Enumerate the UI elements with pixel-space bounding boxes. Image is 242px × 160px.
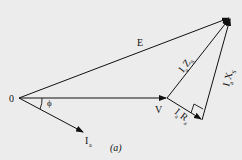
phasor-E xyxy=(19,18,229,98)
right-angle-marker xyxy=(191,104,203,113)
svg-text:a: a xyxy=(89,142,92,148)
svg-text:S: S xyxy=(231,70,238,75)
IaZs-label: I a Z S xyxy=(176,55,196,76)
IaXs-label: I a X S xyxy=(220,68,237,88)
phasor-diagram: 0 E V ϕ I a I a Z S I a X S I a R a (a) xyxy=(0,0,242,160)
phasor-IaZs xyxy=(167,19,229,98)
Ia-label: I a xyxy=(85,135,92,148)
V-label: V xyxy=(155,104,163,115)
phi-label: ϕ xyxy=(47,98,52,108)
E-label: E xyxy=(137,37,143,48)
svg-text:a: a xyxy=(228,81,235,85)
origin-label: 0 xyxy=(9,93,14,104)
IaRa-label: I a R a xyxy=(172,106,193,127)
caption: (a) xyxy=(110,142,122,154)
phi-arc xyxy=(40,98,42,109)
svg-text:I: I xyxy=(85,135,88,146)
phasor-IaXs xyxy=(202,19,230,120)
